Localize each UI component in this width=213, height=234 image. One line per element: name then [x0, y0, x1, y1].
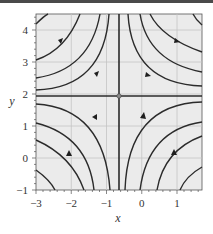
- x-tick-label: 1: [174, 197, 180, 209]
- x-axis-ticks: [36, 190, 198, 194]
- x-tick-label: −2: [65, 197, 77, 209]
- x-tick-label: −1: [101, 197, 113, 209]
- y-axis-label: y: [8, 94, 15, 108]
- phase-portrait-chart: −1 0 1 2 3 4 −3 −2 −1 0 1 x y: [0, 0, 213, 234]
- y-axis-ticks: [32, 17, 36, 190]
- equilibrium-point: [117, 94, 121, 98]
- x-tick-labels: −3 −2 −1 0 1: [30, 197, 180, 209]
- y-tick-label: 1: [23, 120, 29, 132]
- y-tick-label: 0: [23, 152, 29, 164]
- y-tick-label: −1: [16, 184, 28, 196]
- x-axis-label: x: [114, 211, 121, 225]
- y-tick-label: 3: [23, 56, 29, 68]
- y-tick-label: 4: [23, 24, 29, 36]
- y-tick-labels: −1 0 1 2 3 4: [16, 24, 28, 196]
- x-tick-label: 0: [139, 197, 145, 209]
- x-tick-label: −3: [30, 197, 42, 209]
- y-tick-label: 2: [23, 88, 29, 100]
